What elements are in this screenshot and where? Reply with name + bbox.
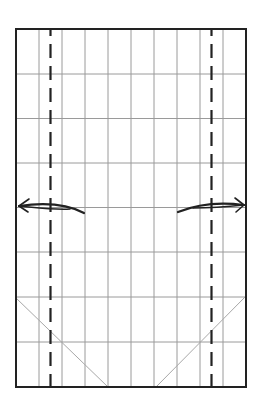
origami-diagram <box>0 0 268 412</box>
